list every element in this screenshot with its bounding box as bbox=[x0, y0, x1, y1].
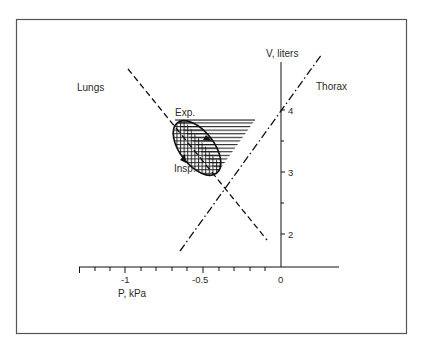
inspiration-label: Insp. bbox=[174, 163, 196, 174]
figure: -1 -0.5 0 P, kPa 4 3 2 V, liters Lungs T… bbox=[0, 0, 423, 350]
y-tick-label: 4 bbox=[288, 105, 293, 116]
x-axis bbox=[79, 267, 339, 273]
y-tick-label: 3 bbox=[288, 167, 293, 178]
y-axis bbox=[281, 62, 285, 267]
y-axis-label: V, liters bbox=[266, 48, 298, 59]
lungs-label: Lungs bbox=[77, 82, 104, 93]
x-tick-label: -1 bbox=[121, 274, 129, 285]
lungs-compliance-line bbox=[128, 69, 267, 240]
figure-frame bbox=[17, 20, 407, 334]
x-axis-label: P, kPa bbox=[118, 288, 147, 299]
y-tick-label: 2 bbox=[288, 229, 293, 240]
thorax-label: Thorax bbox=[316, 81, 347, 92]
x-tick-label: 0 bbox=[278, 274, 283, 285]
expiration-label: Exp. bbox=[175, 107, 195, 118]
x-tick-label: -0.5 bbox=[192, 274, 208, 285]
